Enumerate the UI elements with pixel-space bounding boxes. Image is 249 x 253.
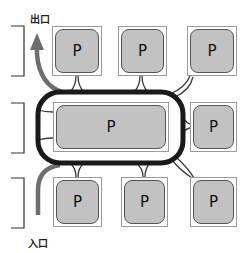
parking-space-label: P	[55, 29, 99, 73]
bracket-top	[11, 26, 24, 76]
parking-space-label: P	[190, 29, 234, 73]
parking-space-bottom-2: P	[121, 177, 168, 227]
bracket-middle	[11, 103, 24, 153]
parking-space-label: P	[56, 180, 99, 224]
parking-space-label: P	[124, 180, 165, 224]
parking-space-bottom-3: P	[190, 177, 237, 227]
exit-arrow-icon	[30, 33, 44, 50]
exit-label: 出口	[30, 11, 50, 26]
parking-space-middle-large: P	[53, 102, 169, 152]
parking-space-label: P	[193, 105, 234, 149]
bracket-bottom	[11, 178, 24, 228]
entrance-label: 入口	[28, 235, 48, 250]
parking-space-top-2: P	[118, 26, 167, 76]
parking-space-top-1: P	[52, 26, 102, 76]
parking-space-label: P	[121, 29, 164, 73]
parking-space-label: P	[56, 105, 166, 149]
parking-space-bottom-1: P	[53, 177, 102, 227]
parking-space-middle-right: P	[190, 102, 237, 152]
parking-space-top-3: P	[187, 26, 237, 76]
row-brackets	[11, 26, 24, 228]
parking-space-label: P	[193, 180, 234, 224]
